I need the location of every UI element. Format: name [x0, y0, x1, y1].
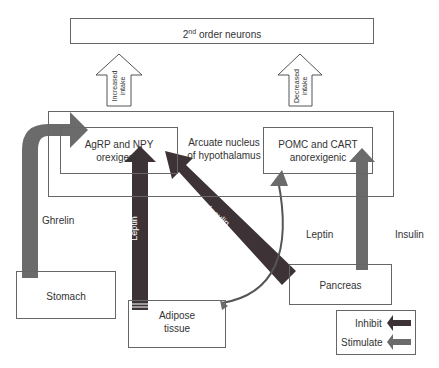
pancreas-box: Pancreas — [289, 264, 392, 305]
decreased-intake-label: Decreasedintake — [293, 65, 309, 107]
pomc-cart-box: POMC and CARTanorexigenic — [263, 127, 373, 174]
adipose-tissue-box: Adiposetissue — [128, 300, 226, 348]
leptin-right-label: Leptin — [306, 228, 333, 241]
stomach-box: Stomach — [16, 271, 116, 319]
increased-intake-label: Increasedintake — [111, 65, 127, 107]
legend-stimulate-label: Stimulate — [341, 336, 383, 349]
legend-inhibit-label: Inhibit — [355, 317, 382, 330]
insulin-right-label: Insulin — [395, 228, 424, 241]
agrp-npy-box: AgRP and NPYorexigenic — [60, 127, 178, 174]
title-rest: order neurons — [196, 29, 261, 40]
legend-box: Inhibit Stimulate — [336, 310, 416, 355]
leptin-vertical-label: Leptin — [128, 216, 141, 241]
ghrelin-label: Ghrelin — [42, 214, 74, 227]
title-sup: nd — [188, 28, 196, 35]
arcuate-label: Arcuate nucleusof hypothalamus — [182, 136, 266, 162]
second-order-neurons-box: 2nd order neurons — [70, 18, 374, 44]
